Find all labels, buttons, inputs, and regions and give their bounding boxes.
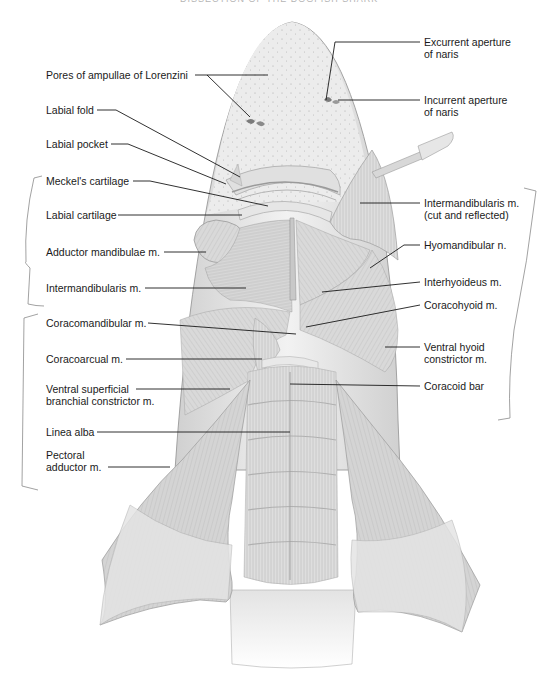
label-intermandibularis: Intermandibularis m.: [46, 282, 141, 294]
label-excurrent-aperture: Excurrent aperture of naris: [424, 36, 511, 60]
label-interhyoideus: Interhyoideus m.: [424, 276, 502, 288]
label-coracohyoid: Coracohyoid m.: [424, 299, 498, 311]
label-labial-fold: Labial fold: [46, 104, 94, 116]
label-coracoid-bar: Coracoid bar: [424, 380, 484, 392]
probe-instrument: [372, 132, 453, 178]
anatomy-figure: DISSECTION OF THE DOGFISH SHARK: [0, 0, 550, 679]
label-hyomandibular-nerve: Hyomandibular n.: [424, 239, 506, 251]
label-adductor-mandibulae: Adductor mandibulae m.: [46, 246, 160, 258]
label-meckels-cartilage: Meckel's cartilage: [46, 175, 129, 187]
abdomen: [244, 366, 338, 585]
left-pectoral-fin: [100, 380, 250, 625]
right-pectoral-fin: [336, 380, 480, 632]
label-pores-ampullae: Pores of ampullae of Lorenzini: [46, 69, 188, 81]
label-ventral-hyoid-constrictor: Ventral hyoid constrictor m.: [424, 341, 487, 365]
bracket-left-lower: [22, 314, 38, 490]
label-pectoral-adductor: Pectoral adductor m.: [46, 449, 101, 473]
label-coracoarcual: Coracoarcual m.: [46, 353, 123, 365]
label-ventral-superficial-branchial-constrictor: Ventral superficial branchial constricto…: [46, 383, 155, 407]
label-linea-alba: Linea alba: [46, 426, 94, 438]
label-intermandibularis-reflected: Intermandibularis m. (cut and reflected): [424, 197, 519, 221]
label-coracomandibular: Coracomandibular m.: [46, 317, 146, 329]
bracket-left-upper: [26, 176, 45, 306]
bracket-right: [498, 188, 536, 420]
label-labial-cartilage: Labial cartilage: [46, 209, 117, 221]
trunk: [230, 590, 356, 668]
label-labial-pocket: Labial pocket: [46, 138, 108, 150]
label-incurrent-aperture: Incurrent aperture of naris: [424, 94, 507, 118]
